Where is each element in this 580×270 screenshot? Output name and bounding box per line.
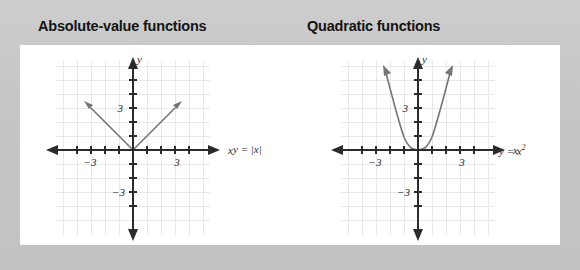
x-tick-label-neg3: −3: [369, 156, 382, 168]
y-tick-label-pos3: 3: [117, 102, 124, 114]
y-axis-arrow-down: [128, 229, 138, 241]
x-tick-label-pos3: 3: [458, 156, 465, 168]
equation-base: y = x: [499, 145, 522, 157]
figure-root: Absolute-value functions Quadratic funct…: [0, 0, 580, 270]
panel-title-absolute-value: Absolute-value functions: [38, 18, 206, 34]
equation-exponent: 2: [522, 143, 526, 152]
y-tick-label-pos3: 3: [402, 102, 409, 114]
y-axis: [129, 65, 137, 233]
panel-title-quadratic: Quadratic functions: [307, 18, 440, 34]
y-tick-label-neg3: −3: [112, 186, 125, 198]
axis-label-y: y: [421, 53, 427, 65]
equation-label-absolute-value: y = |x|: [233, 143, 262, 155]
x-axis-arrow-left: [46, 145, 58, 155]
y-tick-label-neg3: −3: [397, 186, 410, 198]
x-tick-label-pos3: 3: [173, 156, 180, 168]
x-axis-arrow-left: [331, 145, 343, 155]
equation-label-quadratic: y = x2: [499, 143, 525, 157]
y-axis-arrow-down: [413, 229, 423, 241]
x-axis-arrow-right: [208, 145, 220, 155]
axis-label-y: y: [136, 53, 142, 65]
x-tick-label-neg3: −3: [84, 156, 97, 168]
